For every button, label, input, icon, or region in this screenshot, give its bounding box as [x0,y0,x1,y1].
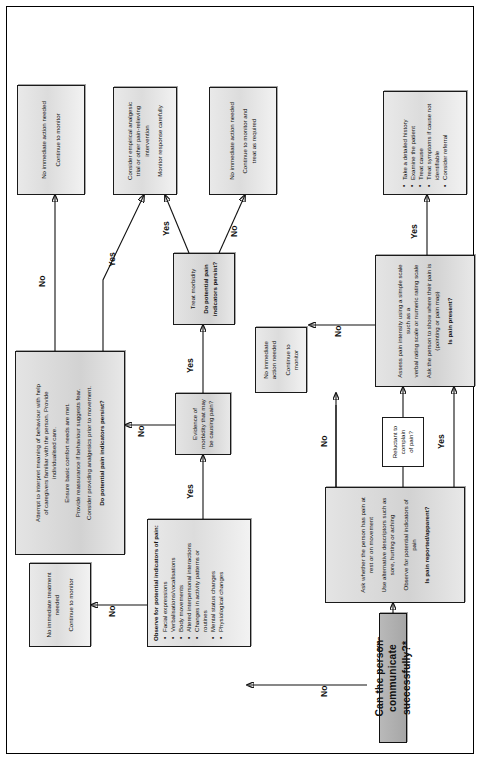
edge-label-no-assess: No [333,326,343,337]
treat-morbidity-box[interactable]: Treat morbidity Do potential pain indica… [173,253,235,325]
observe-bullet-6: Mental status changes [209,525,217,632]
interpret-line-3: individualised care. [49,357,57,549]
edge-label-yes-assess: Yes [409,224,419,239]
observe-bullet-1: Facial expressions [161,525,169,632]
edge-label-yes-interpret: Yes [107,252,117,267]
edge-label-yes-observe: Yes [185,484,195,499]
no-action-treat-line-3: treat as required [249,93,257,189]
interpret-line-6: Consider providing analgesics prior to m… [85,357,93,549]
outcome-no-immediate-action-verbal-box[interactable]: No immediate action needed Continue to m… [255,327,307,393]
assess-line-2: verbal rating scale or numeric rating sc… [411,261,419,381]
interpret-line-2: of caregivers familiar with the person. … [41,357,49,549]
observe-bullet-5-cont: routines [201,525,209,632]
no-action-verbal-line-3: Continue to [283,333,291,387]
morbidity-line-1: Evidence of morbidity that may [190,399,206,449]
history-bullet-1: Take a detailed history [400,97,408,180]
no-action-treat-line-2: Continue to monitor and [241,93,249,189]
reluctant-line-1: Reluctant to complain [390,423,406,461]
interpret-line-4: Ensure basic comfort needs are met. [62,357,70,549]
reluctant-line-2: of pain? [407,423,415,461]
empirical-line-2: trial or other pain-relieving [134,93,142,189]
no-action-verbal-line-2: action needed [270,333,278,387]
observe-bullet-3: Body movements [177,525,185,632]
treat-morbidity-question-1: Do potential pain [202,259,210,319]
interpret-line-1: Attempt to interpret meaning of behaviou… [33,357,41,549]
observe-potential-indicators-box[interactable]: Observe for potential indicators of pain… [147,519,251,647]
history-bullet-2: Examine the patient [408,97,416,180]
empirical-line-4: Monitor response carefully [155,93,163,189]
edge-label-no-observe: No [107,606,117,617]
flowchart-canvas: No Yes No Yes No Yes No Yes No Yes Yes N… [7,6,476,755]
outcome-detailed-history-box[interactable]: Take a detailed history Examine the pati… [383,91,467,195]
ask-verbal-question: Is pain reported/apparent? [422,493,430,597]
morbidity-line-2: be causing pain? [207,399,215,449]
observe-bullet-7: Physiological changes [217,525,225,632]
outcome-empirical-analgesic-box[interactable]: Consider empirical analgesic trial or ot… [113,87,177,195]
start-question-box[interactable]: Can the person communicate successfully?… [379,613,407,743]
edge-label-no-ask-verbal: No [319,436,329,447]
no-treatment-line-1: No immediate treatment [45,569,53,641]
outcome-no-action-monitor-treat-box[interactable]: No immediate action needed Continue to m… [209,87,277,195]
interpret-behaviour-box[interactable]: Attempt to interpret meaning of behaviou… [15,351,125,555]
ask-verbal-line-1: Ask whether the person has pain at rest … [359,493,375,597]
observe-header: Observe for potential indicators of pain… [152,525,160,641]
edge-label-yes-morbidity: Yes [185,358,195,373]
assess-question: Is pain present? [446,261,454,381]
no-treatment-line-3: Continue to monitor [66,569,74,641]
treat-morbidity-line-1: Treat morbidity [189,259,197,319]
edge-label-no-treat-morbidity: No [229,226,239,237]
edge-label-yes-ask-verbal: Yes [436,434,446,449]
treat-morbidity-question-2: indicators persist? [210,259,218,319]
observe-bullet-list: Facial expressions Verbalisations/vocali… [161,525,225,641]
observe-bullet-5: Changes in activity patterns or [193,525,201,632]
no-action-verbal-line-4: monitor [291,333,299,387]
assess-line-1: Assess pain intensity using a simple sca… [395,261,411,381]
history-bullet-5: Consider referral [441,97,449,180]
history-bullet-4-cont: identifiable [433,97,441,180]
no-action-verbal-line-1: No immediate [262,333,270,387]
no-action-monitor-line-1: No immediate action needed [40,91,48,189]
ask-verbal-line-3: Observe for potential indicators of pain [401,493,417,597]
outcome-no-immediate-treatment-box[interactable]: No immediate treatment needed Continue t… [29,563,91,647]
assess-line-4: (pointing or pain map) [433,261,441,381]
edge-label-no-morbidity: No [136,426,146,437]
reluctant-to-complain-box[interactable]: Reluctant to complain of pain? [382,417,424,467]
empirical-line-1: Consider empirical analgesic [126,93,134,189]
flowchart-screen: No Yes No Yes No Yes No Yes No Yes Yes N… [0,0,482,761]
observe-bullet-4: Altered interpersonal interactions [185,525,193,632]
interpret-line-5: Provide reassurance if behaviour suggest… [74,357,82,549]
ask-verbal-line-2: Use alternative descriptors such as sore… [380,493,396,597]
assess-line-3: Ask the person to show where their pain … [425,261,433,381]
interpret-question: Do potential pain indicators persist? [98,357,106,549]
no-treatment-line-2: needed [53,569,61,641]
edge-label-yes-treat-morbidity: Yes [161,221,171,236]
no-action-treat-line-1: No immediate action needed [228,93,236,189]
history-bullet-3: Treat cause [416,97,424,180]
history-bullet-list: Take a detailed history Examine the pati… [400,97,448,189]
evidence-of-morbidity-box[interactable]: Evidence of morbidity that may be causin… [175,393,231,455]
no-action-monitor-line-2: Continue to monitor [53,91,61,189]
ask-verbal-assessment-box[interactable]: Ask whether the person has pain at rest … [325,487,465,603]
observe-bullet-2: Verbalisations/vocalisations [169,525,177,632]
history-bullet-4: Treat symptoms if cause not [425,97,433,180]
empirical-line-3: intervention [142,93,150,189]
start-question-text: Can the person communicate successfully?… [372,619,412,737]
edge-label-no-start: No [319,686,329,697]
assess-pain-intensity-box[interactable]: Assess pain intensity using a simple sca… [375,255,475,387]
edge-label-no-interpret: No [37,276,47,287]
outcome-no-immediate-action-monitor-box[interactable]: No immediate action needed Continue to m… [17,85,85,195]
flowchart-canvas-wrap: No Yes No Yes No Yes No Yes No Yes Yes N… [0,0,482,761]
